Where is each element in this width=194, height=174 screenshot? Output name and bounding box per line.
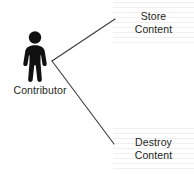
actor-label-contributor: Contributor bbox=[2, 84, 78, 96]
usecase-label-destroy: Destroy Content bbox=[113, 136, 194, 161]
usecase-store-line2: Content bbox=[113, 23, 194, 36]
usecase-store-line1: Store bbox=[113, 10, 194, 23]
connector-line-destroy bbox=[52, 61, 114, 144]
diagram-canvas: Contributor Store Content Destroy Conten… bbox=[0, 0, 194, 174]
connector-line-store bbox=[52, 19, 115, 61]
usecase-destroy-line1: Destroy bbox=[113, 136, 194, 149]
person-pictogram-icon bbox=[14, 30, 56, 82]
usecase-destroy-line2: Content bbox=[113, 149, 194, 162]
usecase-label-store: Store Content bbox=[113, 10, 194, 35]
